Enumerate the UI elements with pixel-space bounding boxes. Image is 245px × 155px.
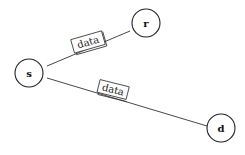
- node-label: d: [218, 123, 225, 134]
- node-d: d: [207, 114, 235, 142]
- network-diagram: data data s r d: [0, 0, 245, 155]
- node-r: r: [132, 9, 160, 37]
- node-label: s: [26, 68, 32, 79]
- edge-label-s-d: data: [97, 80, 131, 102]
- edge-s-d: [47, 78, 207, 126]
- edge-label-s-r: data: [71, 31, 107, 55]
- node-s: s: [15, 59, 43, 87]
- node-label: r: [143, 18, 149, 29]
